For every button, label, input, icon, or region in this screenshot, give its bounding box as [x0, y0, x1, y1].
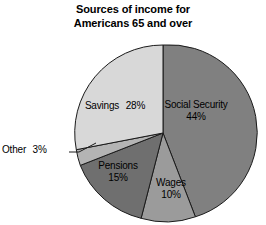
pie-label-other: Other 3% — [2, 144, 78, 156]
pie-label-wages-name: Wages — [140, 177, 202, 189]
pie-label-savings-value: 28% — [126, 100, 145, 111]
pie-label-social-security-value: 44% — [148, 111, 244, 123]
pie-label-savings-name: Savings — [85, 100, 119, 111]
pie-label-wages-value: 10% — [140, 189, 202, 201]
pie-chart-figure: Sources of income for Americans 65 and o… — [0, 0, 266, 225]
pie-label-pensions-name: Pensions — [82, 160, 154, 172]
pie-label-wages: Wages 10% — [140, 177, 202, 200]
pie-label-savings: Savings 28% — [60, 100, 170, 112]
pie-slice-savings — [75, 45, 163, 150]
pie-label-other-name: Other — [2, 144, 26, 155]
pie-label-other-value: 3% — [33, 144, 47, 155]
